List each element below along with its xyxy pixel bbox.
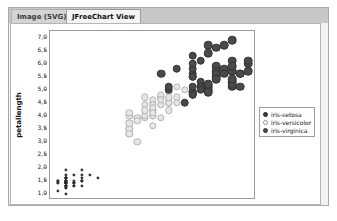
data-point [96, 176, 99, 179]
data-point [64, 192, 67, 195]
data-point [157, 114, 164, 121]
data-point [80, 184, 83, 187]
y-axis-label: petallength [15, 92, 23, 138]
data-point [149, 122, 156, 129]
data-point [165, 107, 172, 114]
data-point [181, 86, 188, 93]
data-point [133, 138, 140, 145]
data-point [188, 90, 197, 99]
y-axis-tick-mark [44, 76, 47, 77]
data-point [126, 130, 133, 137]
data-point [204, 80, 213, 89]
legend-marker-icon [263, 120, 268, 125]
data-point [204, 88, 213, 97]
data-point [56, 189, 59, 192]
y-axis-tick-mark [44, 193, 47, 194]
data-point [88, 174, 91, 177]
data-point [80, 179, 83, 182]
data-point [64, 169, 67, 172]
y-axis-tick-mark [44, 167, 47, 168]
y-axis-tick-labels: 1,01,52,02,53,03,54,04,55,05,56,06,57,0 [23, 24, 47, 205]
legend-item-versicolor[interactable]: iris-versicolor [263, 118, 311, 126]
data-point [180, 98, 189, 107]
y-axis-tick-mark [44, 63, 47, 64]
data-point [196, 57, 205, 66]
y-axis-tick-mark [44, 128, 47, 129]
data-point [80, 169, 83, 172]
chart-panel: petallength 1,01,52,02,53,03,54,04,55,05… [10, 23, 321, 205]
y-axis-tick-mark [44, 89, 47, 90]
tab-jfreechart-view[interactable]: JFreeChart View [66, 9, 141, 24]
y-axis-tick-mark [44, 154, 47, 155]
data-point [220, 41, 229, 50]
tab-strip: Image (SVG) JFreeChart View [9, 8, 328, 23]
y-axis-tick-mark [44, 141, 47, 142]
data-point [228, 62, 237, 71]
data-point [188, 72, 197, 81]
data-point [64, 187, 67, 190]
data-points-layer [50, 31, 254, 198]
data-point [133, 117, 140, 124]
data-point [165, 83, 174, 92]
data-point [228, 75, 237, 84]
legend-marker-icon [263, 112, 268, 117]
application-window: Image (SVG) JFreeChart View petallength … [8, 7, 329, 206]
data-point [228, 36, 237, 45]
data-point [196, 85, 205, 94]
legend-item-label: iris-virginica [271, 127, 307, 134]
legend-marker-icon [263, 128, 268, 133]
data-point [236, 83, 245, 92]
tab-image-svg[interactable]: Image (SVG) [11, 9, 72, 23]
y-axis-tick-mark [44, 180, 47, 181]
data-point [188, 83, 197, 92]
data-point [72, 174, 75, 177]
y-axis-tick-mark [44, 115, 47, 116]
scatter-plot-area[interactable] [49, 30, 255, 199]
legend-item-virginica[interactable]: iris-virginica [263, 126, 311, 134]
chart-legend[interactable]: iris-setosa iris-versicolor iris-virgini… [259, 107, 315, 137]
data-point [172, 64, 181, 73]
data-point [173, 83, 180, 90]
y-axis-tick-mark [44, 37, 47, 38]
data-point [244, 57, 253, 66]
data-point [204, 49, 213, 58]
data-point [212, 75, 221, 84]
y-axis-tick-mark [44, 50, 47, 51]
legend-item-label: iris-setosa [271, 111, 302, 118]
data-point [244, 67, 253, 76]
y-axis-tick-mark [44, 102, 47, 103]
data-point [72, 184, 75, 187]
data-point [157, 70, 166, 79]
data-point [56, 182, 59, 185]
legend-item-setosa[interactable]: iris-setosa [263, 110, 311, 118]
data-point [141, 94, 148, 101]
data-point [173, 99, 180, 106]
legend-item-label: iris-versicolor [271, 119, 311, 126]
